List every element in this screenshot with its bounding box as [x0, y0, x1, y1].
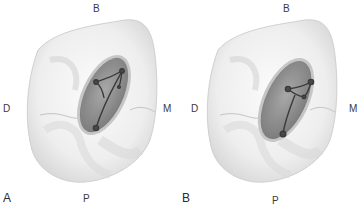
panel-label-a: A [3, 192, 11, 204]
orientation-buccal-b: B [283, 4, 290, 14]
tooth-panel-b [207, 20, 337, 182]
tooth-panel-a [27, 20, 157, 182]
orientation-distal-b: D [191, 104, 198, 114]
orientation-buccal-a: B [93, 4, 100, 14]
orientation-palatal-b: P [272, 196, 279, 206]
panel-label-b: B [182, 192, 190, 204]
orientation-mesial-a: M [163, 104, 171, 114]
orientation-palatal-a: P [83, 194, 90, 204]
orientation-distal-a: D [3, 104, 10, 114]
figure-canvas [0, 0, 360, 210]
orientation-mesial-b: M [349, 104, 357, 114]
